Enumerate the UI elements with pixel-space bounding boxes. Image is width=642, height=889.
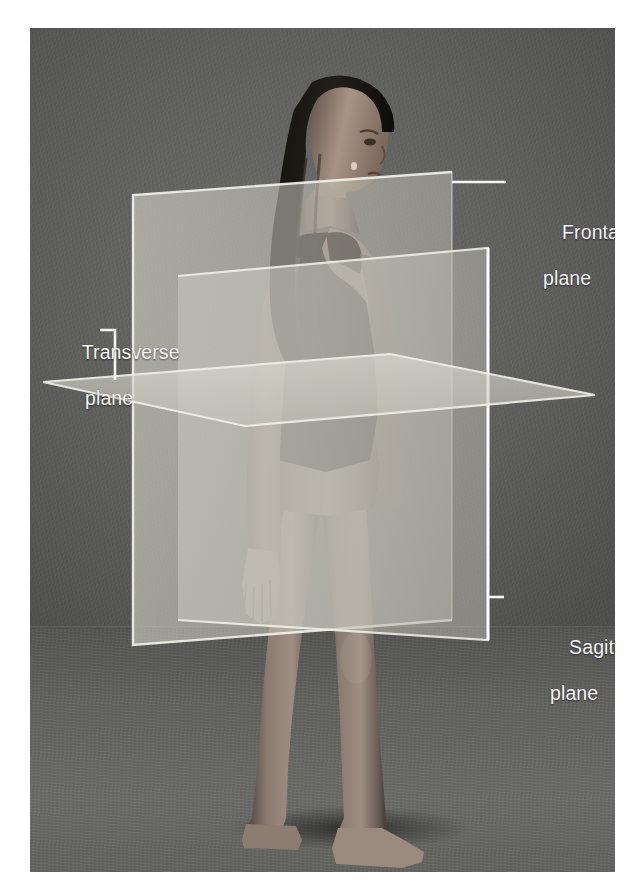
label-frontal-line2: plane (543, 267, 615, 290)
label-frontal-plane: Frontal plane (529, 198, 615, 336)
label-transverse-plane: Transverse plane (49, 318, 180, 456)
anatomical-planes-figure: Frontal plane Transverse plane Sagittal … (0, 0, 642, 889)
label-transverse-line1: Transverse (82, 341, 180, 363)
sagittal-plane (178, 248, 488, 640)
label-sagittal-line2: plane (550, 682, 615, 705)
label-frontal-line1: Frontal (562, 221, 615, 243)
photograph: Frontal plane Transverse plane Sagittal … (30, 28, 615, 872)
label-transverse-line2: plane (85, 387, 180, 410)
label-sagittal-plane: Sagittal plane (536, 613, 615, 751)
label-sagittal-line1: Sagittal (569, 636, 615, 658)
